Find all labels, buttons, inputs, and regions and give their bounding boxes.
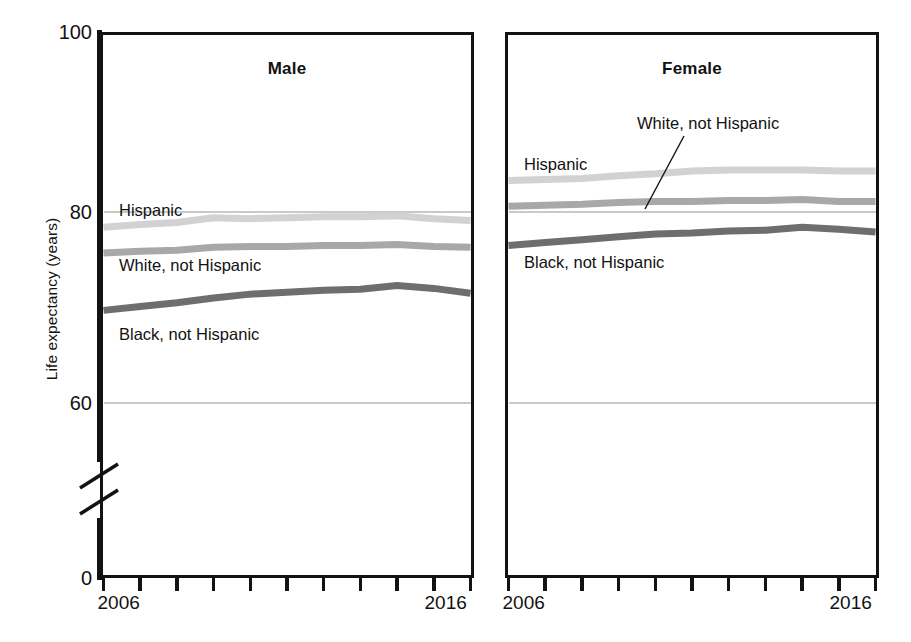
female-white-leader-line (0, 0, 911, 642)
life-expectancy-figure: Life expectancy (years) 100 80 60 0 Male… (0, 0, 911, 642)
